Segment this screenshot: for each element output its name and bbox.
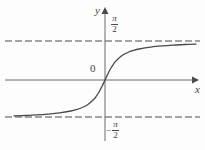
y-axis-arrowhead: [102, 7, 109, 14]
upper-asymptote-fraction: π 2: [111, 14, 118, 34]
upper-asymptote-denominator: 2: [111, 25, 118, 34]
y-axis-label: y: [95, 5, 100, 16]
lower-asymptote-denominator: 2: [112, 131, 119, 140]
arctan-graph-figure: y x 0 π 2 − π 2: [0, 0, 205, 150]
lower-asymptote-label: − π 2: [106, 120, 119, 140]
upper-asymptote-label: π 2: [110, 14, 118, 34]
origin-label: 0: [90, 63, 96, 74]
upper-asymptote-numerator: π: [111, 14, 118, 23]
plot-canvas: [0, 0, 205, 150]
lower-asymptote-fraction: π 2: [112, 120, 119, 140]
x-axis-label: x: [195, 84, 200, 95]
lower-asymptote-numerator: π: [112, 120, 119, 129]
lower-asymptote-sign: −: [106, 126, 111, 135]
